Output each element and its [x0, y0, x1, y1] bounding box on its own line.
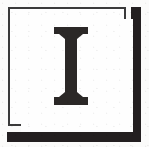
- letter-fillet-top-right: [77, 34, 83, 39]
- letter-bottom-serif: [54, 97, 88, 105]
- shadow-slab-bottom: [7, 132, 141, 142]
- decorative-initial-scan: [0, 0, 149, 147]
- letter-stem: [65, 27, 77, 105]
- drop-cap-initial-I: [8, 7, 126, 126]
